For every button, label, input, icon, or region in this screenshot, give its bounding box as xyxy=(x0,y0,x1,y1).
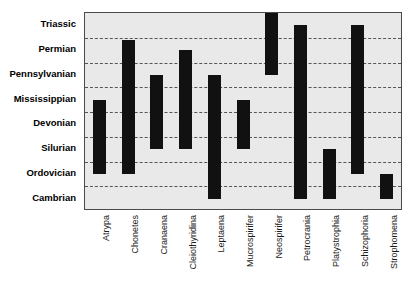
range-bar-cranaena xyxy=(150,75,163,149)
y-axis-label-devonian: Devonian xyxy=(33,118,76,128)
y-axis-label-mississippian: Mississippian xyxy=(14,94,76,104)
range-bar-petrocrania xyxy=(294,25,307,198)
x-axis-label-cleiothyridina: Cleiothyridina xyxy=(189,215,198,270)
cropped-title-remnant xyxy=(0,0,405,7)
range-bar-cleiothyridina xyxy=(179,50,192,149)
x-axis-label-cranaena: Cranaena xyxy=(160,215,169,255)
stratigraphic-range-chart: TriassicPermianPennsylvanianMississippia… xyxy=(0,0,405,286)
range-bar-chonetes xyxy=(122,40,135,174)
x-axis-label-platystrophia: Platystrophia xyxy=(332,215,341,267)
range-bar-leptaena xyxy=(208,75,221,199)
range-bar-platystrophia xyxy=(323,149,336,199)
x-axis-label-chonetes: Chonetes xyxy=(131,215,140,254)
y-axis-label-cambrian: Cambrian xyxy=(32,193,76,203)
x-axis-label-petrocrania: Petrocrania xyxy=(303,215,312,261)
range-bar-strophomena xyxy=(380,174,393,199)
y-axis-label-silurian: Silurian xyxy=(41,143,76,153)
x-axis-label-leptaena: Leptaena xyxy=(217,215,226,253)
range-bar-neospirifer xyxy=(265,13,278,75)
y-axis-labels: TriassicPermianPennsylvanianMississippia… xyxy=(0,12,80,210)
x-axis-label-neospirifer: Neospirifer xyxy=(275,215,284,259)
x-axis-labels: AtrypaChonetesCranaenaCleiothyridinaLept… xyxy=(84,213,402,286)
range-bar-atrypa xyxy=(93,100,106,174)
y-axis-label-permian: Permian xyxy=(39,44,77,54)
gridline-cambrian xyxy=(85,186,401,187)
plot-area xyxy=(84,12,402,210)
y-axis-label-pennsylvanian: Pennsylvanian xyxy=(9,69,76,79)
x-axis-label-strophomena: Strophomena xyxy=(390,215,399,269)
range-bar-schizophoria xyxy=(351,25,364,174)
x-axis-label-schizophoria: Schizophoria xyxy=(361,215,370,267)
x-axis-label-mucrospirifer: Mucrospirifer xyxy=(246,215,255,267)
x-axis-label-atrypa: Atrypa xyxy=(102,215,111,241)
y-axis-label-triassic: Triassic xyxy=(41,19,76,29)
range-bar-mucrospirifer xyxy=(237,100,250,150)
y-axis-label-ordovician: Ordovician xyxy=(26,168,76,178)
